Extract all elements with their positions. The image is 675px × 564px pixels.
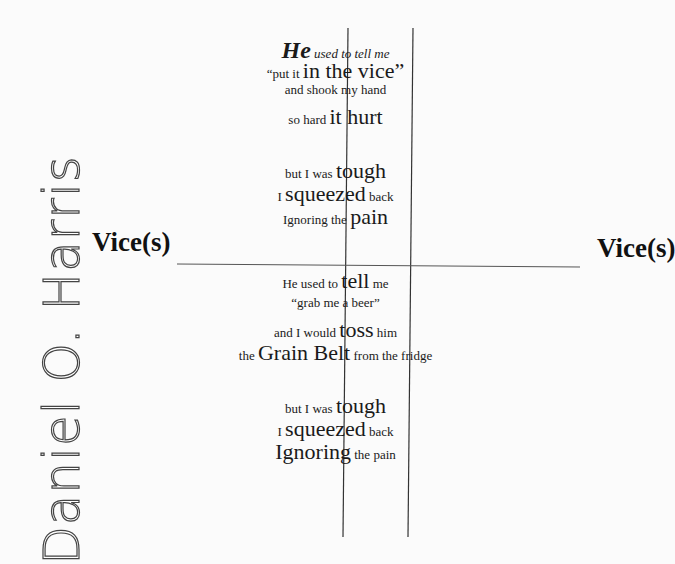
poem-word: toss [339, 317, 373, 342]
poem-word: the [239, 348, 258, 363]
poem-word: so hard [288, 112, 329, 127]
poem-word: squeezed [285, 416, 366, 441]
poem-word: and I would [274, 325, 339, 340]
poem-line: He used to tell me [0, 270, 671, 292]
poem-word: back [366, 189, 394, 204]
title-left: Vice(s) [92, 227, 170, 258]
poem-word: ” [394, 58, 404, 83]
poem-line: I squeezed back [0, 418, 671, 440]
poem-word: and shook my hand [285, 82, 386, 97]
poem-word: in the vice [303, 58, 395, 83]
poem-word: but I was [285, 401, 336, 416]
poem-line: “grab me a beer” [0, 296, 671, 309]
poem-word: “put it [267, 66, 303, 81]
poem-line: “put it in the vice” [0, 60, 671, 82]
poem-word: squeezed [285, 181, 366, 206]
poem-word: Ignoring the [283, 212, 350, 227]
poem-word: I [277, 189, 285, 204]
horizontal-line [177, 264, 580, 267]
poem-word: Ignoring [275, 439, 351, 464]
poem-line: but I was tough [0, 160, 671, 182]
poem-word: from the fridge [350, 348, 432, 363]
poem-line: and shook my hand [0, 83, 671, 96]
poem-word: but I was [285, 166, 336, 181]
poem-word: He used to [282, 276, 341, 291]
poem-line: I squeezed back [0, 183, 671, 205]
poem-word: pain [350, 204, 388, 229]
poem-word: back [366, 424, 394, 439]
poem-line: but I was tough [0, 395, 671, 417]
poem-word: me [369, 276, 388, 291]
poem-line: so hard it hurt [0, 106, 671, 128]
title-right: Vice(s) [597, 233, 675, 264]
poem-word: him [374, 325, 397, 340]
poem-word: Grain Belt [258, 340, 350, 365]
poem-word: tough [336, 393, 386, 418]
poem-word: I [277, 424, 285, 439]
poem-line: Ignoring the pain [0, 206, 671, 228]
poem-line: the Grain Belt from the fridge [0, 342, 671, 364]
poem-word: the pain [351, 447, 396, 462]
poem-word: it hurt [330, 104, 383, 129]
poem-word: “grab me a beer” [291, 295, 379, 310]
poem-word: tough [336, 158, 386, 183]
poem-line: Ignoring the pain [0, 441, 671, 463]
poem-line: and I would toss him [0, 319, 671, 341]
poem-word: tell [341, 268, 369, 293]
